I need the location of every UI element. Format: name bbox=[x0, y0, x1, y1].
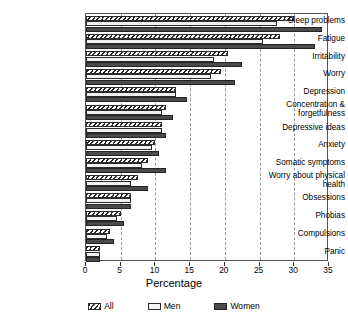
bar-all bbox=[86, 122, 162, 127]
legend-label: Men bbox=[164, 301, 181, 311]
tick-label-25: 25 bbox=[247, 265, 271, 275]
tick-label-0: 0 bbox=[73, 265, 97, 275]
chart-legend: AllMenWomen bbox=[0, 301, 348, 311]
legend-item-women[interactable]: Women bbox=[214, 301, 259, 311]
legend-item-men[interactable]: Men bbox=[148, 301, 181, 311]
tick-label-30: 30 bbox=[281, 265, 305, 275]
bar-all bbox=[86, 158, 148, 163]
category-label: Compulsions bbox=[264, 230, 348, 239]
bar-men bbox=[86, 92, 176, 97]
bar-all bbox=[86, 69, 221, 74]
bar-all bbox=[86, 87, 176, 92]
bar-men bbox=[86, 39, 263, 44]
category-label: Worry about physical health bbox=[264, 172, 348, 189]
bar-all bbox=[86, 34, 280, 39]
bar-all bbox=[86, 105, 166, 110]
bar-all bbox=[86, 175, 138, 180]
bar-all bbox=[86, 193, 131, 198]
plot-area bbox=[85, 13, 328, 261]
category-label: Depression bbox=[264, 88, 348, 97]
tick-label-10: 10 bbox=[142, 265, 166, 275]
bar-men bbox=[86, 110, 162, 115]
category-label: Obsessions bbox=[264, 194, 348, 203]
bar-men bbox=[86, 216, 117, 221]
category-label: Anxiety bbox=[264, 141, 348, 150]
bar-all bbox=[86, 140, 155, 145]
category-label: Concentration & forgetfulness bbox=[264, 101, 348, 118]
bar-men bbox=[86, 252, 100, 257]
category-label: Somatic symptoms bbox=[264, 159, 348, 168]
bar-all bbox=[86, 211, 121, 216]
bar-all bbox=[86, 51, 228, 56]
legend-swatch-all bbox=[88, 303, 101, 310]
legend-swatch-women bbox=[214, 303, 227, 310]
bar-men bbox=[86, 57, 214, 62]
bar-men bbox=[86, 198, 131, 203]
bar-men bbox=[86, 181, 131, 186]
x-axis-title: Percentage bbox=[0, 277, 348, 289]
category-label: Sleep problems bbox=[264, 17, 348, 26]
category-label: Depressive ideas bbox=[264, 124, 348, 133]
bar-men bbox=[86, 21, 277, 26]
category-label: Panic bbox=[264, 248, 348, 257]
bar-men bbox=[86, 163, 142, 168]
tick-label-5: 5 bbox=[108, 265, 132, 275]
tick-label-20: 20 bbox=[212, 265, 236, 275]
bar-chart: Sleep problemsFatigueIrritabilityWorryDe… bbox=[0, 0, 348, 327]
category-label: Fatigue bbox=[264, 35, 348, 44]
bar-men bbox=[86, 145, 152, 150]
legend-label: All bbox=[104, 301, 114, 311]
bar-men bbox=[86, 74, 211, 79]
category-label: Worry bbox=[264, 70, 348, 79]
legend-item-all[interactable]: All bbox=[88, 301, 114, 311]
bar-all bbox=[86, 229, 110, 234]
legend-label: Women bbox=[230, 301, 259, 311]
category-label: Phobias bbox=[264, 212, 348, 221]
category-label: Irritability bbox=[264, 53, 348, 62]
bar-men bbox=[86, 234, 107, 239]
tick-label-15: 15 bbox=[177, 265, 201, 275]
bar-men bbox=[86, 128, 162, 133]
bar-all bbox=[86, 246, 100, 251]
x-axis-ticks: 05101520253035 bbox=[85, 262, 328, 274]
legend-swatch-men bbox=[148, 303, 161, 310]
tick-label-35: 35 bbox=[316, 265, 340, 275]
